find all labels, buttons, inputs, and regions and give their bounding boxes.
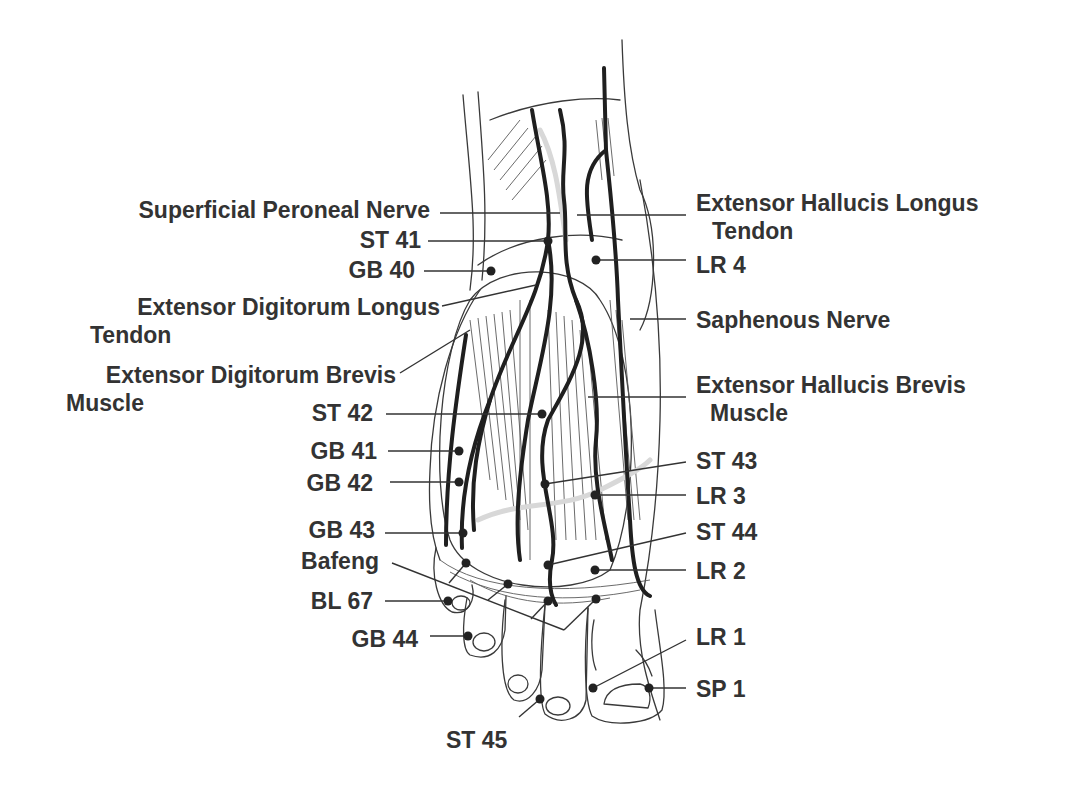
point-bafeng-point-2 xyxy=(504,580,513,589)
label-st-43: ST 43 xyxy=(696,448,757,474)
point-lr-4 xyxy=(592,256,601,265)
point-lr-3 xyxy=(591,491,600,500)
label-lr-1: LR 1 xyxy=(696,624,746,650)
label-bl-67: BL 67 xyxy=(311,588,373,614)
label-lr-4: LR 4 xyxy=(696,252,746,278)
label-st-41: ST 41 xyxy=(360,227,422,253)
label-lr-2: LR 2 xyxy=(696,558,746,584)
leader-extensor-digitorum-longus-tendon xyxy=(442,285,536,306)
point-st-41 xyxy=(544,237,553,246)
label-gb-42: GB 42 xyxy=(307,470,373,496)
point-st-45 xyxy=(536,695,545,704)
label-sp-1: SP 1 xyxy=(696,676,746,702)
label-extensor-hallucis-brevis-muscle: Extensor Hallucis Brevis xyxy=(696,372,966,398)
leader-st-44 xyxy=(548,533,686,565)
leader-bafeng-branch-4 xyxy=(564,599,596,630)
point-st-42 xyxy=(538,410,547,419)
label-st-42: ST 42 xyxy=(312,400,373,426)
label-gb-41: GB 41 xyxy=(311,438,378,464)
point-gb-40 xyxy=(487,267,496,276)
label-extensor-digitorum-longus-tendon: Extensor Digitorum Longus xyxy=(137,294,440,320)
point-bafeng-point-3 xyxy=(544,597,553,606)
label-extensor-digitorum-brevis-muscle: Extensor Digitorum Brevis xyxy=(106,362,396,388)
label-extensor-digitorum-longus-tendon-line2: Tendon xyxy=(90,322,171,348)
point-gb-41 xyxy=(455,447,464,456)
label-gb-43: GB 43 xyxy=(309,517,375,543)
point-bafeng-point-4 xyxy=(592,595,601,604)
point-sp-1 xyxy=(645,684,654,693)
point-bafeng-point-1 xyxy=(462,559,471,568)
label-extensor-hallucis-longus-tendon: Extensor Hallucis Longus xyxy=(696,190,978,216)
label-gb-44: GB 44 xyxy=(352,626,419,652)
label-st-44: ST 44 xyxy=(696,519,758,545)
point-st-44 xyxy=(544,561,553,570)
label-extensor-digitorum-brevis-muscle-line2: Muscle xyxy=(66,390,144,416)
point-gb-43 xyxy=(459,529,468,538)
leader-lr-1 xyxy=(593,640,686,688)
foot-illustration: Superficial Peroneal NerveST 41GB 40Exte… xyxy=(0,0,1083,794)
label-st-45: ST 45 xyxy=(446,727,508,753)
label-saphenous-nerve: Saphenous Nerve xyxy=(696,307,890,333)
point-lr-1 xyxy=(589,684,598,693)
foot-diagram: Superficial Peroneal NerveST 41GB 40Exte… xyxy=(0,0,1083,794)
point-gb-44 xyxy=(464,632,473,641)
label-bafeng: Bafeng xyxy=(301,548,379,574)
label-extensor-hallucis-brevis-muscle-line2: Muscle xyxy=(710,400,788,426)
label-extensor-hallucis-longus-tendon-line2: Tendon xyxy=(712,218,793,244)
label-gb-40: GB 40 xyxy=(349,257,415,283)
point-lr-2 xyxy=(591,566,600,575)
label-lr-3: LR 3 xyxy=(696,483,746,509)
point-gb-42 xyxy=(455,478,464,487)
point-st-43 xyxy=(541,480,550,489)
label-superficial-peroneal-nerve: Superficial Peroneal Nerve xyxy=(139,197,430,223)
point-bl-67 xyxy=(444,597,453,606)
